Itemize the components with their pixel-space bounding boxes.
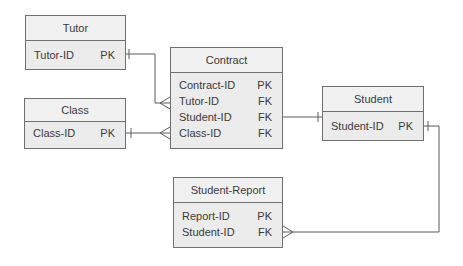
attribute-row: Tutor-ID FK: [179, 93, 274, 109]
attribute-row: Contract-ID PK: [179, 77, 274, 93]
attribute-row: Student-ID FK: [179, 109, 274, 125]
entity-student[interactable]: Student Student-ID PK: [322, 86, 424, 141]
attribute-name: Class-ID: [179, 125, 221, 141]
entity-title: Student: [323, 87, 423, 112]
attribute-row: Student-ID PK: [331, 118, 415, 134]
entity-title: Tutor: [26, 16, 125, 41]
attribute-key: PK: [398, 118, 415, 134]
attribute-name: Report-ID: [182, 208, 230, 224]
attribute-name: Tutor-ID: [34, 47, 74, 63]
entity-student-report[interactable]: Student-Report Report-ID PK Student-ID F…: [173, 177, 283, 248]
attribute-key: FK: [258, 224, 274, 240]
entity-title: Student-Report: [174, 178, 282, 203]
attribute-name: Class-ID: [33, 125, 75, 141]
attribute-row: Class-ID PK: [33, 125, 117, 141]
attribute-key: FK: [258, 109, 274, 125]
attribute-key: PK: [100, 47, 117, 63]
attribute-name: Student-ID: [179, 109, 232, 125]
attribute-key: PK: [257, 77, 274, 93]
attribute-row: Student-ID FK: [182, 224, 274, 240]
entity-title: Contract: [171, 48, 282, 73]
tutor-contract-link: [125, 54, 170, 103]
attribute-key: FK: [258, 93, 274, 109]
attribute-row: Tutor-ID PK: [34, 47, 117, 63]
attribute-row: Report-ID PK: [182, 208, 274, 224]
attribute-row: Class-ID FK: [179, 125, 274, 141]
attribute-key: PK: [100, 125, 117, 141]
entity-tutor[interactable]: Tutor Tutor-ID PK: [25, 15, 126, 70]
entity-class[interactable]: Class Class-ID PK: [24, 98, 126, 149]
attribute-key: PK: [257, 208, 274, 224]
attribute-name: Contract-ID: [179, 77, 235, 93]
attribute-name: Tutor-ID: [179, 93, 219, 109]
attribute-name: Student-ID: [182, 224, 235, 240]
entity-title: Class: [25, 99, 125, 122]
attribute-name: Student-ID: [331, 118, 384, 134]
attribute-key: FK: [258, 125, 274, 141]
entity-contract[interactable]: Contract Contract-ID PK Tutor-ID FK Stud…: [170, 47, 283, 149]
student-report-link: [283, 126, 439, 232]
